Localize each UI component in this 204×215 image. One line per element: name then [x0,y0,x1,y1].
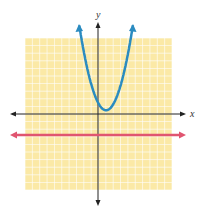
y-axis-label: y [95,9,101,20]
y-axis-up-arrow-icon [96,22,101,28]
line-right-arrow-icon [179,132,186,139]
line-left-arrow-icon [10,132,17,139]
parabola-right-arrow-icon [129,24,137,32]
graph: x y [0,0,204,215]
x-axis-left-arrow-icon [10,112,16,117]
parabola-left-arrow-icon [76,24,84,32]
y-axis-down-arrow-icon [96,200,101,206]
x-axis-label: x [189,108,195,119]
x-axis-right-arrow-icon [180,112,186,117]
